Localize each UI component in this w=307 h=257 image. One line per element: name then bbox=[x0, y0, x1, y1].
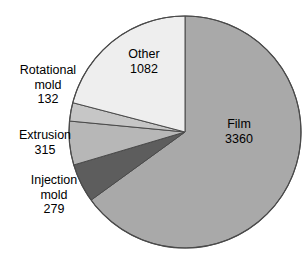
slice-label-injection-mold: Injection mold 279 bbox=[6, 173, 102, 217]
slice-label-film-name: Film bbox=[206, 117, 272, 132]
pie-chart-figure: Other 1082 Film 3360 Rotational mold 132… bbox=[0, 0, 307, 257]
slice-label-injection-mold-line1: Injection bbox=[6, 173, 102, 188]
slice-label-rotational-mold-line1: Rotational bbox=[2, 63, 94, 78]
slice-label-other-name: Other bbox=[108, 47, 180, 62]
slice-label-rotational-mold-value: 132 bbox=[2, 92, 94, 107]
slice-label-other-value: 1082 bbox=[108, 62, 180, 77]
slice-label-film-value: 3360 bbox=[206, 132, 272, 147]
slice-label-rotational-mold: Rotational mold 132 bbox=[2, 63, 94, 107]
slice-label-injection-mold-line2: mold bbox=[6, 188, 102, 203]
slice-label-extrusion-value: 315 bbox=[2, 143, 88, 158]
slice-label-injection-mold-value: 279 bbox=[6, 202, 102, 217]
slice-label-film: Film 3360 bbox=[206, 117, 272, 146]
slice-label-other: Other 1082 bbox=[108, 47, 180, 76]
slice-label-rotational-mold-line2: mold bbox=[2, 78, 94, 93]
slice-label-extrusion: Extrusion 315 bbox=[2, 128, 88, 157]
slice-label-extrusion-line1: Extrusion bbox=[2, 128, 88, 143]
